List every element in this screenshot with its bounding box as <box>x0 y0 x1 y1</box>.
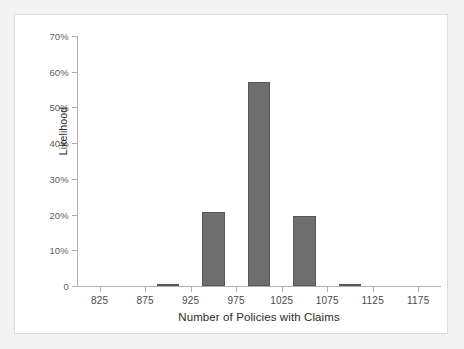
y-axis-tick-label: 20% <box>49 209 69 220</box>
bar-1000 <box>248 82 271 286</box>
bar-1050 <box>293 216 316 286</box>
y-tick-60% <box>72 72 77 73</box>
y-axis-tick-label: 70% <box>49 31 69 42</box>
x-tick-1175 <box>418 287 419 292</box>
x-axis-title: Number of Policies with Claims <box>77 311 441 323</box>
x-tick-1125 <box>373 287 374 292</box>
y-tick-20% <box>72 215 77 216</box>
y-axis-title: Likelihood <box>57 91 69 171</box>
y-axis-tick-label: 30% <box>49 173 69 184</box>
x-axis-tick-label: 825 <box>91 295 108 306</box>
y-tick-0 <box>72 286 77 287</box>
x-axis-tick-label: 875 <box>137 295 154 306</box>
x-tick-975 <box>236 287 237 292</box>
x-tick-875 <box>145 287 146 292</box>
x-axis-tick-label: 975 <box>228 295 245 306</box>
y-tick-40% <box>72 143 77 144</box>
y-axis-line <box>77 36 78 286</box>
bar-1100 <box>339 284 362 287</box>
x-axis-tick-label: 1075 <box>316 295 339 306</box>
bar-900 <box>157 284 180 287</box>
chart-page: 010%20%30%40%50%60%70% 82587592597510251… <box>0 0 464 349</box>
x-tick-1025 <box>282 287 283 292</box>
chart-card: 010%20%30%40%50%60%70% 82587592597510251… <box>14 14 448 334</box>
x-axis-tick-label: 925 <box>182 295 199 306</box>
bar-950 <box>202 212 225 286</box>
y-tick-70% <box>72 36 77 37</box>
x-axis-tick-label: 1125 <box>362 295 384 306</box>
y-tick-50% <box>72 107 77 108</box>
x-tick-1075 <box>327 287 328 292</box>
plot-area: 010%20%30%40%50%60%70% 82587592597510251… <box>77 36 441 286</box>
x-tick-825 <box>100 287 101 292</box>
y-tick-10% <box>72 250 77 251</box>
x-tick-925 <box>191 287 192 292</box>
x-axis-tick-label: 1175 <box>407 295 429 306</box>
y-tick-30% <box>72 179 77 180</box>
y-axis-tick-label: 10% <box>49 245 69 256</box>
x-axis-line <box>77 286 441 287</box>
y-axis-tick-label: 60% <box>49 66 69 77</box>
y-axis-tick-label: 0 <box>64 281 69 292</box>
x-axis-tick-label: 1025 <box>270 295 293 306</box>
